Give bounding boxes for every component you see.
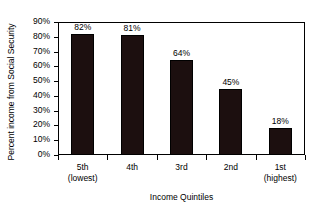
y-tick-label: 20% xyxy=(33,119,50,130)
bar-3rd xyxy=(170,60,193,155)
bar-5th xyxy=(71,34,94,155)
bar-1st xyxy=(269,128,292,155)
x-category-label-primary: 5th xyxy=(77,162,89,172)
y-tick-label: 70% xyxy=(33,46,50,57)
x-category-label-sub: (highest) xyxy=(250,173,310,184)
y-tick-label: 80% xyxy=(33,31,50,42)
bar-value-label-5th: 82% xyxy=(63,22,103,32)
x-axis-title: Income Quintiles xyxy=(58,192,305,202)
y-tick-label: 60% xyxy=(33,60,50,71)
bar-4th xyxy=(121,35,144,155)
x-tick-mark xyxy=(206,155,207,160)
y-tick-label: 30% xyxy=(33,105,50,116)
bar-value-label-4th: 81% xyxy=(112,23,152,33)
x-tick-mark xyxy=(256,155,257,160)
bar-value-label-3rd: 64% xyxy=(162,48,202,58)
x-tick-mark xyxy=(157,155,158,160)
x-tick-mark xyxy=(107,155,108,160)
bar-value-label-1st: 18% xyxy=(260,116,300,126)
y-tick-label: 90% xyxy=(33,16,50,27)
x-category-label-primary: 2nd xyxy=(224,162,238,172)
bar-value-label-2nd: 45% xyxy=(211,77,251,87)
y-tick-label: 0% xyxy=(38,149,50,160)
x-category-label-primary: 3rd xyxy=(175,162,187,172)
y-tick-label: 40% xyxy=(33,90,50,101)
x-category-label-primary: 1st xyxy=(275,162,286,172)
y-tick-label: 50% xyxy=(33,75,50,86)
x-category-label-primary: 4th xyxy=(126,162,138,172)
bar-2nd xyxy=(219,89,242,156)
x-category-label-sub: (lowest) xyxy=(53,173,113,184)
x-tick-mark xyxy=(305,155,306,160)
y-axis-title: Percent income from Social Security xyxy=(4,12,18,172)
bar-chart-figure: Percent income from Social Security 90%8… xyxy=(0,0,321,213)
x-tick-mark xyxy=(58,155,59,160)
x-category-label-1st: 1st(highest) xyxy=(250,162,310,184)
y-tick-label: 10% xyxy=(33,134,50,145)
